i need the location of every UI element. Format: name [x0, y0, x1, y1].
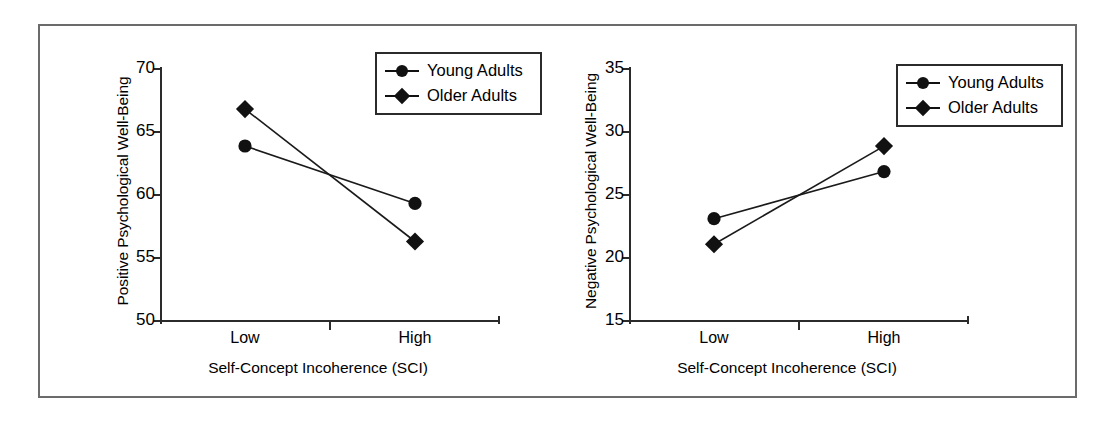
data-point-young-adults-high: [408, 197, 421, 210]
y-axis-title: Negative Psychological Well-Being: [582, 46, 604, 336]
y-tick-label: 50: [136, 310, 155, 330]
legend-marker-circle-icon: [383, 62, 421, 80]
x-category-label-low: Low: [699, 329, 728, 347]
legend-marker-diamond-icon: [383, 87, 421, 105]
data-point-young-adults-high: [877, 165, 890, 178]
y-tick-label: 60: [136, 184, 155, 204]
data-point-young-adults-low: [238, 139, 251, 152]
y-tick-label: 55: [136, 247, 155, 267]
legend-item-young-adults: Young Adults: [904, 70, 1051, 95]
series-line-older-adults: [714, 146, 884, 244]
y-axis-title: Positive Psychological Well-Being: [114, 46, 136, 336]
legend-marker-diamond-icon: [904, 99, 942, 117]
x-axis-title: Self-Concept Incoherence (SCI): [148, 359, 488, 377]
chart-panel-positive: Positive Psychological Well-Being 70 65 …: [40, 26, 560, 400]
x-category-label-low: Low: [230, 329, 259, 347]
series-line-older-adults: [245, 109, 415, 241]
legend-label: Older Adults: [427, 87, 517, 104]
chart-panel-negative: Negative Psychological Well-Being 35 30 …: [559, 26, 1079, 400]
y-tick-label: 70: [136, 58, 155, 78]
data-point-young-adults-low: [707, 212, 720, 225]
y-tick-label: 65: [136, 121, 155, 141]
legend-label: Older Adults: [948, 99, 1038, 116]
data-point-older-adults-high: [406, 232, 424, 250]
data-point-older-adults-low: [705, 235, 723, 253]
legend-positive: Young Adults Older Adults: [375, 52, 542, 115]
x-axis-title: Self-Concept Incoherence (SCI): [617, 359, 957, 377]
legend-marker-circle-icon: [904, 74, 942, 92]
x-tick-middle: [798, 322, 800, 330]
y-tick-label: 15: [605, 310, 624, 330]
data-point-older-adults-high: [875, 137, 893, 155]
y-tick-label: 20: [605, 247, 624, 267]
legend-negative: Young Adults Older Adults: [896, 64, 1063, 127]
y-tick-label: 25: [605, 184, 624, 204]
x-tick-middle: [329, 322, 331, 330]
legend-label: Young Adults: [948, 74, 1044, 91]
data-point-older-adults-low: [236, 100, 254, 118]
y-tick-label: 35: [605, 58, 624, 78]
legend-label: Young Adults: [427, 62, 523, 79]
figure-frame: Positive Psychological Well-Being 70 65 …: [38, 24, 1077, 398]
x-category-label-high: High: [868, 329, 901, 347]
legend-item-young-adults: Young Adults: [383, 58, 530, 83]
x-category-label-high: High: [399, 329, 432, 347]
legend-item-older-adults: Older Adults: [383, 83, 530, 108]
y-tick-label: 30: [605, 121, 624, 141]
legend-item-older-adults: Older Adults: [904, 95, 1051, 120]
